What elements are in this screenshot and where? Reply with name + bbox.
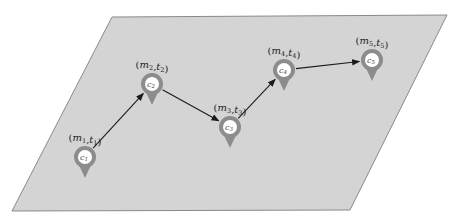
trajectory-diagram: c1(m1,t1)c2(m2,t2)c3(m3,t3)c4(m4,t4)c5(m… — [0, 0, 457, 222]
